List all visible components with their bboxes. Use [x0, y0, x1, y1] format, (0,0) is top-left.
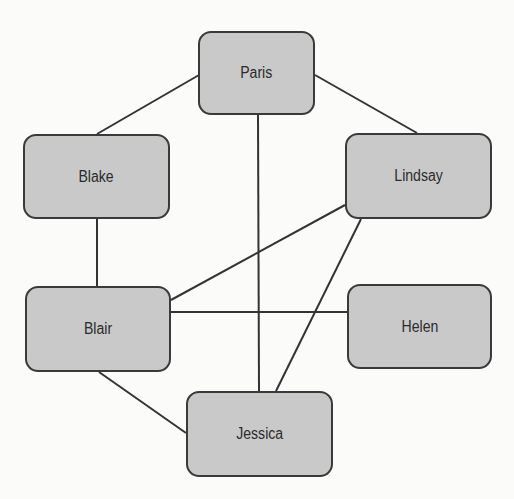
edge-blair-jessica [99, 372, 186, 433]
node-blair: Blair [25, 286, 171, 372]
node-label: Blake [79, 168, 114, 186]
node-label: Helen [401, 318, 438, 336]
node-label: Jessica [236, 425, 283, 443]
node-jessica: Jessica [186, 391, 333, 477]
node-paris: Paris [198, 31, 315, 115]
edge-paris-lindsay [315, 75, 417, 133]
edge-paris-blake [97, 75, 199, 134]
node-blake: Blake [23, 134, 170, 219]
node-label: Lindsay [394, 167, 443, 185]
node-lindsay: Lindsay [345, 133, 492, 219]
network-diagram: Paris Blake Lindsay Blair Helen Jessica [0, 0, 514, 499]
node-helen: Helen [347, 284, 492, 369]
node-label: Blair [84, 320, 112, 338]
node-label: Paris [240, 64, 272, 82]
